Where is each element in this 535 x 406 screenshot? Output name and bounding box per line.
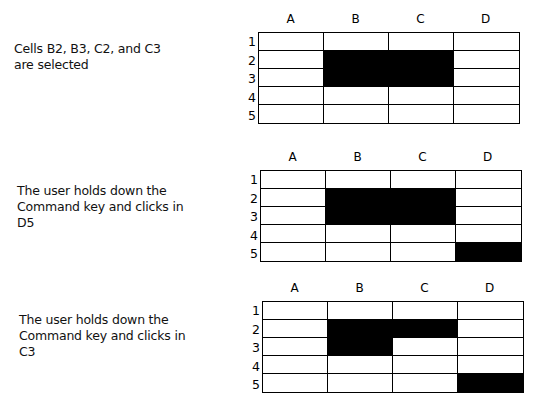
caption-line: The user holds down the (17, 183, 183, 199)
cell-d5[interactable] (454, 105, 519, 123)
row-header-5[interactable]: 5 (246, 246, 258, 261)
column-header-c[interactable]: C (388, 12, 453, 26)
cell-a3[interactable] (263, 338, 328, 356)
row-header-2[interactable]: 2 (246, 191, 258, 206)
row-header-5[interactable]: 5 (244, 108, 256, 123)
row-header-1[interactable]: 1 (244, 34, 256, 49)
cell-d4[interactable] (456, 225, 521, 243)
row-header-3[interactable]: 3 (244, 71, 256, 86)
cell-a4[interactable] (261, 225, 326, 243)
cell-d5[interactable] (456, 243, 521, 261)
cell-c3[interactable] (391, 207, 456, 225)
cell-a2[interactable] (259, 51, 324, 69)
cell-b3[interactable] (324, 69, 389, 87)
cell-b1[interactable] (324, 33, 389, 51)
cell-c4[interactable] (391, 225, 456, 243)
column-header-a[interactable]: A (258, 12, 323, 26)
cell-a1[interactable] (259, 33, 324, 51)
spreadsheet-2: ABCD12345 (246, 150, 526, 266)
cell-c5[interactable] (389, 105, 454, 123)
cell-d1[interactable] (458, 302, 523, 320)
row-header-3[interactable]: 3 (248, 340, 260, 355)
cell-c4[interactable] (389, 87, 454, 105)
row-header-4[interactable]: 4 (244, 90, 256, 105)
spreadsheet-1: ABCD12345 (244, 12, 524, 128)
column-header-d[interactable]: D (455, 150, 520, 164)
cell-grid (262, 301, 524, 393)
cell-b5[interactable] (328, 374, 393, 392)
cell-d1[interactable] (454, 33, 519, 51)
cell-a5[interactable] (263, 374, 328, 392)
column-header-d[interactable]: D (457, 281, 522, 295)
caption-line: C3 (19, 344, 185, 360)
clipped-caption-fragment (220, 398, 460, 406)
column-header-b[interactable]: B (323, 12, 388, 26)
cell-b4[interactable] (326, 225, 391, 243)
cell-a2[interactable] (261, 189, 326, 207)
column-header-a[interactable]: A (260, 150, 325, 164)
cell-c1[interactable] (393, 302, 458, 320)
cell-b1[interactable] (328, 302, 393, 320)
cell-a1[interactable] (261, 171, 326, 189)
cell-c3[interactable] (393, 338, 458, 356)
column-header-b[interactable]: B (325, 150, 390, 164)
row-header-2[interactable]: 2 (244, 53, 256, 68)
cell-d2[interactable] (456, 189, 521, 207)
cell-b3[interactable] (328, 338, 393, 356)
cell-d4[interactable] (458, 356, 523, 374)
cell-a3[interactable] (259, 69, 324, 87)
cell-d4[interactable] (454, 87, 519, 105)
column-header-a[interactable]: A (262, 281, 327, 295)
cell-a4[interactable] (259, 87, 324, 105)
cell-b2[interactable] (328, 320, 393, 338)
row-header-3[interactable]: 3 (246, 209, 258, 224)
row-header-4[interactable]: 4 (246, 228, 258, 243)
cell-b4[interactable] (324, 87, 389, 105)
cell-d2[interactable] (454, 51, 519, 69)
cell-a5[interactable] (261, 243, 326, 261)
panel-2-caption: The user holds down the Command key and … (17, 183, 183, 231)
row-header-1[interactable]: 1 (246, 172, 258, 187)
cell-b5[interactable] (326, 243, 391, 261)
cell-c1[interactable] (389, 33, 454, 51)
row-header-4[interactable]: 4 (248, 359, 260, 374)
cell-grid (258, 32, 520, 124)
row-header-2[interactable]: 2 (248, 322, 260, 337)
cell-b3[interactable] (326, 207, 391, 225)
cell-a1[interactable] (263, 302, 328, 320)
cell-a3[interactable] (261, 207, 326, 225)
cell-d3[interactable] (454, 69, 519, 87)
column-header-b[interactable]: B (327, 281, 392, 295)
cell-c5[interactable] (393, 374, 458, 392)
cell-c3[interactable] (389, 69, 454, 87)
cell-b1[interactable] (326, 171, 391, 189)
cell-d3[interactable] (456, 207, 521, 225)
cell-c2[interactable] (391, 189, 456, 207)
caption-line: Cells B2, B3, C2, and C3 (14, 41, 161, 57)
cell-d5[interactable] (458, 374, 523, 392)
cell-a4[interactable] (263, 356, 328, 374)
panel-3-caption: The user holds down the Command key and … (19, 312, 185, 360)
column-header-d[interactable]: D (453, 12, 518, 26)
column-header-c[interactable]: C (390, 150, 455, 164)
cell-d1[interactable] (456, 171, 521, 189)
cell-b2[interactable] (326, 189, 391, 207)
cell-c4[interactable] (393, 356, 458, 374)
cell-c1[interactable] (391, 171, 456, 189)
cell-b4[interactable] (328, 356, 393, 374)
panel-1-caption: Cells B2, B3, C2, and C3 are selected (14, 41, 161, 73)
caption-line: The user holds down the (19, 312, 185, 328)
cell-d2[interactable] (458, 320, 523, 338)
cell-a5[interactable] (259, 105, 324, 123)
cell-d3[interactable] (458, 338, 523, 356)
cell-b2[interactable] (324, 51, 389, 69)
column-header-c[interactable]: C (392, 281, 457, 295)
cell-c2[interactable] (393, 320, 458, 338)
cell-c5[interactable] (391, 243, 456, 261)
cell-a2[interactable] (263, 320, 328, 338)
cell-b5[interactable] (324, 105, 389, 123)
caption-line: are selected (14, 57, 161, 73)
cell-c2[interactable] (389, 51, 454, 69)
row-header-1[interactable]: 1 (248, 303, 260, 318)
row-header-5[interactable]: 5 (248, 377, 260, 392)
